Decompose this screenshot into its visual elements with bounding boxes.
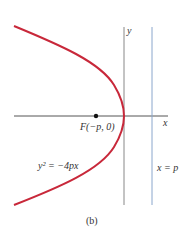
focus-label: F(−p, 0) (79, 121, 115, 133)
y-axis-label: y (126, 25, 132, 36)
equation-label: y² = −4px (37, 160, 79, 171)
figure-caption: (b) (86, 215, 98, 227)
directrix-label: x = p (156, 162, 178, 173)
x-axis-label: x (162, 117, 168, 128)
focus-point (94, 114, 98, 118)
parabola-diagram: y x F(−p, 0) y² = −4px x = p (b) (0, 0, 186, 235)
